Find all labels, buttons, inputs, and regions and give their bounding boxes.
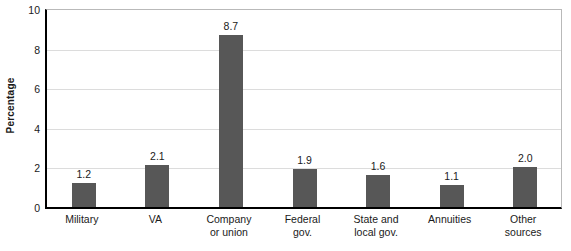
bar-value-label: 1.6	[371, 160, 386, 172]
x-tick-label: VA	[149, 213, 162, 226]
bar-value-label: 8.7	[224, 20, 239, 32]
bar	[145, 165, 169, 207]
plot-area: 1.22.18.71.91.61.12.0	[47, 10, 561, 207]
y-tick-label: 10	[15, 4, 45, 16]
y-tick-label: 2	[15, 162, 45, 174]
bar	[440, 185, 464, 207]
gridline	[47, 50, 561, 51]
y-axis-tick-labels: 0246810	[15, 0, 45, 209]
x-axis-category-labels: MilitaryVACompanyor unionFederalgov.Stat…	[45, 213, 562, 251]
y-tick-label: 0	[15, 202, 45, 214]
gridline	[47, 129, 561, 130]
bar	[72, 183, 96, 207]
bar-value-label: 1.9	[297, 154, 312, 166]
bar-value-label: 2.1	[150, 150, 165, 162]
bar	[293, 169, 317, 207]
bar-chart-screenshot: Percentage 0246810 1.22.18.71.91.61.12.0…	[0, 0, 571, 251]
gridline	[47, 10, 561, 11]
bar-value-label: 1.2	[76, 168, 91, 180]
bar	[219, 35, 243, 207]
x-tick-label: Federalgov.	[285, 213, 321, 239]
plot-frame: 1.22.18.71.91.61.12.0	[45, 9, 562, 209]
y-tick-label: 6	[15, 83, 45, 95]
y-tick-label: 4	[15, 123, 45, 135]
x-tick-label: Othersources	[505, 213, 542, 239]
bar	[366, 175, 390, 207]
x-tick-label: Military	[65, 213, 98, 226]
bar-value-label: 1.1	[444, 170, 459, 182]
x-tick-label: Annuities	[428, 213, 471, 226]
bar	[513, 167, 537, 207]
gridline	[47, 89, 561, 90]
x-tick-label: State andlocal gov.	[354, 213, 399, 239]
bar-value-label: 2.0	[518, 152, 533, 164]
x-tick-label: Companyor union	[206, 213, 251, 239]
y-tick-label: 8	[15, 44, 45, 56]
